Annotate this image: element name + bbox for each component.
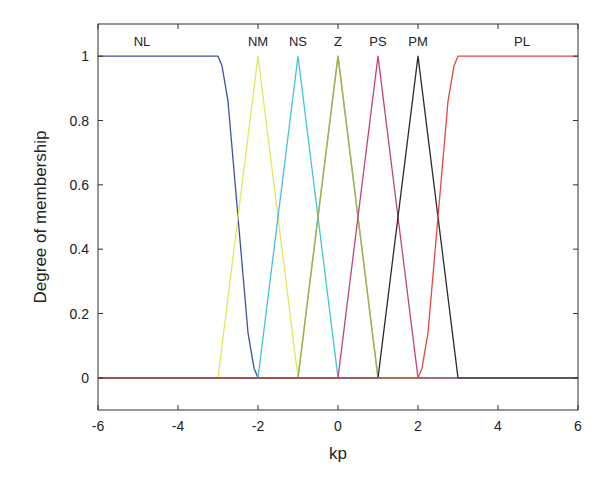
x-tick-label: -6 — [92, 418, 105, 434]
x-tick-label: 4 — [494, 418, 502, 434]
y-tick-label: 1 — [81, 48, 89, 64]
membership-function-chart: -6-4-20246 00.20.40.60.81 NLNMNSZPSPMPL … — [0, 0, 607, 481]
series-label-ps: PS — [369, 34, 387, 49]
y-tick-label: 0.2 — [70, 306, 90, 322]
x-tick-label: 6 — [574, 418, 582, 434]
y-tick-label: 0.8 — [70, 113, 90, 129]
x-tick-label: 2 — [414, 418, 422, 434]
x-axis-label: kp — [329, 444, 347, 463]
y-axis-label: Degree of membership — [31, 131, 50, 304]
series-label-z: Z — [334, 34, 342, 49]
y-tick-label: 0.6 — [70, 177, 90, 193]
figure-background — [0, 0, 607, 481]
series-label-ns: NS — [289, 34, 307, 49]
series-label-pl: PL — [514, 34, 530, 49]
series-label-nl: NL — [134, 34, 151, 49]
x-tick-label: -4 — [172, 418, 185, 434]
y-tick-label: 0 — [81, 370, 89, 386]
x-tick-label: -2 — [252, 418, 265, 434]
series-label-pm: PM — [408, 34, 428, 49]
x-tick-label: 0 — [334, 418, 342, 434]
y-tick-label: 0.4 — [70, 241, 90, 257]
series-label-nm: NM — [248, 34, 268, 49]
